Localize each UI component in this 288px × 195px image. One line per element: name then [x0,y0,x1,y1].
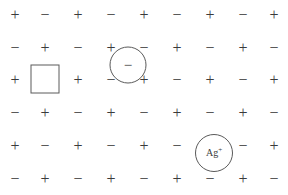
interstitial-anion-circle: − [110,47,147,84]
lattice-cation: + [139,138,148,154]
ionic-crystal-lattice-figure: +−+−+−+−+−+−+−+−+−++−+−+−+−+−+−+−+−+−+−+… [0,0,288,195]
lattice-cation: + [40,105,49,121]
lattice-anion: − [238,7,247,23]
lattice-anion: − [172,138,181,154]
lattice-cation: + [172,171,181,187]
lattice-cation: + [10,7,19,23]
lattice-anion: − [40,138,49,154]
lattice-cation: + [238,40,247,56]
lattice-cation: + [205,7,214,23]
lattice-anion: − [139,105,148,121]
lattice-anion: − [269,40,278,56]
lattice-cation: + [10,72,19,88]
lattice-anion: − [10,40,19,56]
interstitial-anion-label: − [124,58,132,73]
lattice-anion: − [40,7,49,23]
lattice-anion: − [238,138,247,154]
lattice-cation: + [40,40,49,56]
silver-ion-label: Ag+ [206,148,222,158]
lattice-cation: + [73,7,82,23]
lattice-anion: − [106,138,115,154]
vacancy-square [31,65,60,94]
lattice-cation: + [269,7,278,23]
lattice-anion: − [205,105,214,121]
lattice-anion: − [269,171,278,187]
lattice-cation: + [139,7,148,23]
lattice-anion: − [172,7,181,23]
lattice-anion: − [238,72,247,88]
lattice-cation: + [172,40,181,56]
lattice-cation: + [238,105,247,121]
lattice-anion: − [73,105,82,121]
silver-ion-symbol: Ag [206,147,218,158]
lattice-cation: + [106,171,115,187]
lattice-anion: − [73,171,82,187]
lattice-cation: + [10,138,19,154]
lattice-anion: − [139,171,148,187]
lattice-cation: + [106,105,115,121]
lattice-cation: + [73,138,82,154]
lattice-cation: + [40,171,49,187]
lattice-anion: − [172,72,181,88]
lattice-cation: + [205,72,214,88]
lattice-cation: + [269,72,278,88]
lattice-cation: + [73,72,82,88]
lattice-anion: − [106,7,115,23]
silver-ion-charge: + [218,146,222,154]
lattice-anion: − [10,105,19,121]
lattice-cation: + [238,171,247,187]
lattice-cation: + [172,105,181,121]
lattice-anion: − [205,171,214,187]
lattice-anion: − [269,105,278,121]
lattice-anion: − [73,40,82,56]
lattice-cation: + [269,138,278,154]
silver-ion-circle: Ag+ [195,134,233,172]
lattice-anion: − [10,171,19,187]
lattice-anion: − [205,40,214,56]
